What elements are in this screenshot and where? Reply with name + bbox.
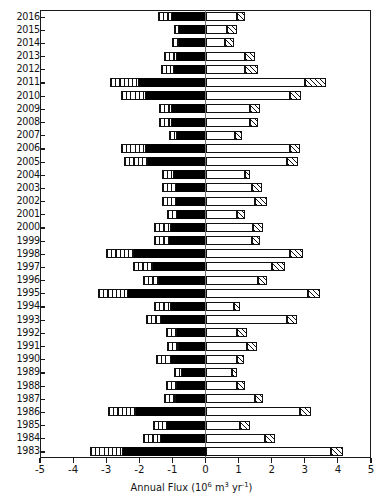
bar-segment-black-negative [123,447,206,456]
bar-segment-white-positive [206,394,256,403]
y-axis-tick [40,135,45,136]
bar-row [0,315,383,324]
bar-row [0,262,383,271]
bar-row [0,12,383,21]
bar-row [0,342,383,351]
y-axis-tick [40,56,45,57]
bar-segment-hatched-positive [305,78,327,87]
y-axis-tick [40,359,45,360]
x-axis-tick-label: 4 [323,464,353,475]
y-axis-tick [40,346,45,347]
y-axis-tick [40,293,45,294]
bar-row [0,328,383,337]
bar-segment-striped-negative [108,407,136,416]
bar-segment-white-positive [206,302,234,311]
bar-segment-hatched-positive [240,421,250,430]
bar-segment-black-negative [172,12,205,21]
bar-row [0,78,383,87]
bar-segment-hatched-positive [227,25,237,34]
bar-segment-hatched-positive [287,315,297,324]
bar-segment-hatched-positive [245,52,255,61]
x-axis-tick-label: -5 [25,464,55,475]
bar-segment-hatched-positive [290,144,300,153]
bar-segment-black-negative [177,210,205,219]
bar-row [0,91,383,100]
x-axis-tick [73,458,74,463]
bar-segment-black-negative [172,104,205,113]
bar-segment-hatched-positive [237,381,245,390]
bar-segment-white-positive [206,315,287,324]
x-axis-tick-label: -1 [157,464,187,475]
x-axis-tick [337,458,338,463]
bar-segment-striped-negative [167,210,177,219]
x-axis-tick [271,458,272,463]
bar-segment-black-negative [161,315,206,324]
y-axis-year-label: 2008 [0,117,40,127]
bar-segment-white-positive [206,52,246,61]
bar-row [0,434,383,443]
x-axis-tick [39,458,40,463]
y-axis-year-label: 2001 [0,209,40,219]
y-axis-year-label: 2009 [0,104,40,114]
bar-segment-white-positive [206,342,247,351]
bar-segment-hatched-positive [308,289,320,298]
y-axis-year-label: 2014 [0,38,40,48]
y-axis-tick [40,438,45,439]
bar-row [0,210,383,219]
bar-segment-striped-negative [146,315,161,324]
bar-segment-hatched-positive [250,118,258,127]
y-axis-year-label: 2012 [0,64,40,74]
bar-segment-white-positive [206,157,287,166]
bar-segment-striped-negative [162,197,175,206]
x-axis-title: Annual Flux (106 m3 yr-1) [0,481,383,493]
y-axis-tick [40,30,45,31]
y-axis-year-label: 2007 [0,130,40,140]
bar-segment-striped-negative [153,421,168,430]
bar-segment-black-negative [174,170,205,179]
bar-segment-black-negative [182,368,205,377]
bar-row [0,447,383,456]
bar-segment-black-negative [128,289,206,298]
y-axis-tick [40,320,45,321]
bar-segment-white-positive [206,197,256,206]
bar-row [0,276,383,285]
bar-segment-striped-negative [159,118,172,127]
bar-segment-white-positive [206,381,237,390]
bar-segment-black-negative [176,183,206,192]
y-axis-year-label: 1993 [0,315,40,325]
x-axis-tick-label: 3 [290,464,320,475]
axis-title-end: ) [249,482,253,493]
y-axis-year-label: 1998 [0,249,40,259]
y-axis-year-label: 1992 [0,328,40,338]
bar-segment-hatched-positive [245,170,250,179]
bar-segment-white-positive [206,65,246,74]
bar-segment-white-positive [206,447,332,456]
bar-segment-striped-negative [164,52,177,61]
bar-segment-white-positive [206,368,232,377]
bar-segment-striped-negative [90,447,123,456]
y-axis-tick [40,267,45,268]
bar-segment-white-positive [206,289,309,298]
bar-segment-white-positive [206,170,246,179]
bar-segment-striped-negative [154,236,169,245]
y-axis-year-label: 1983 [0,446,40,456]
bar-segment-white-positive [206,131,236,140]
bar-segment-white-positive [206,236,252,245]
y-axis-tick [40,96,45,97]
bar-segment-striped-negative [156,355,171,364]
bar-segment-black-negative [171,223,206,232]
bar-row [0,65,383,74]
bar-segment-striped-negative [154,302,171,311]
y-axis-tick [40,451,45,452]
bar-segment-black-negative [139,78,205,87]
y-axis-year-label: 1994 [0,301,40,311]
bar-segment-hatched-positive [331,447,343,456]
y-axis-year-label: 2006 [0,143,40,153]
y-axis-tick [40,412,45,413]
bar-segment-white-positive [206,183,252,192]
y-axis-year-label: 2005 [0,157,40,167]
bar-segment-black-negative [176,394,206,403]
y-axis-tick [40,306,45,307]
bar-row [0,38,383,47]
bar-segment-black-negative [169,236,205,245]
